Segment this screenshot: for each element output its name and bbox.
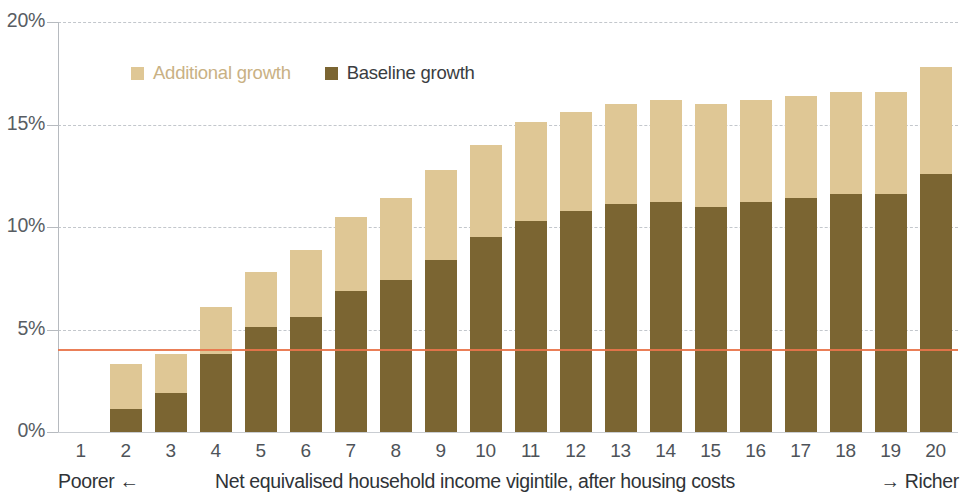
bar-vigintile-12	[560, 112, 592, 432]
bar-vigintile-14	[650, 100, 682, 432]
chart-legend: Additional growth Baseline growth	[131, 62, 475, 84]
bar-segment-baseline	[740, 202, 772, 432]
x-axis-tick-3: 3	[149, 440, 193, 462]
gridline-5%	[58, 330, 958, 331]
x-axis-tick-2: 2	[104, 440, 148, 462]
bar-segment-baseline	[335, 291, 367, 432]
x-axis-tick-18: 18	[824, 440, 868, 462]
bar-vigintile-2	[110, 364, 142, 432]
y-axis-tick-0%: 0%	[0, 419, 45, 442]
bar-segment-additional	[515, 122, 547, 220]
bar-segment-baseline	[110, 409, 142, 432]
y-axis-tickmark-0%	[47, 432, 58, 433]
x-axis-tick-13: 13	[599, 440, 643, 462]
x-axis-tick-19: 19	[869, 440, 913, 462]
bar-segment-baseline	[470, 237, 502, 432]
bar-vigintile-17	[785, 96, 817, 432]
bar-segment-additional	[650, 100, 682, 203]
legend-item-baseline-growth: Baseline growth	[325, 62, 475, 84]
bar-vigintile-20	[920, 67, 952, 432]
y-axis-tickmark-10%	[47, 227, 58, 228]
y-axis-tick-5%: 5%	[0, 317, 45, 340]
bar-vigintile-16	[740, 100, 772, 432]
x-axis-tick-9: 9	[419, 440, 463, 462]
bar-segment-baseline	[560, 211, 592, 432]
x-axis-tick-16: 16	[734, 440, 778, 462]
bar-segment-baseline	[650, 202, 682, 432]
bar-segment-baseline	[245, 327, 277, 432]
x-axis-tick-10: 10	[464, 440, 508, 462]
bar-segment-baseline	[290, 317, 322, 432]
legend-swatch-additional-icon	[131, 67, 144, 80]
bar-vigintile-15	[695, 104, 727, 432]
x-axis-caption-row: Poorer ← Net equivalised household incom…	[0, 470, 965, 498]
bar-segment-additional	[470, 145, 502, 237]
x-axis-caption-poorer: Poorer ←	[58, 470, 139, 493]
bar-segment-baseline	[785, 198, 817, 432]
legend-label-baseline: Baseline growth	[347, 62, 475, 84]
bar-segment-baseline	[695, 207, 727, 433]
bar-segment-baseline	[380, 280, 412, 432]
gridline-20%	[58, 22, 958, 23]
bar-segment-additional	[560, 112, 592, 210]
bar-vigintile-19	[875, 92, 907, 432]
y-axis-tick-20%: 20%	[0, 9, 45, 32]
x-axis-tick-17: 17	[779, 440, 823, 462]
bar-segment-baseline	[515, 221, 547, 432]
x-axis-tick-12: 12	[554, 440, 598, 462]
bar-segment-baseline	[605, 204, 637, 432]
bar-segment-additional	[110, 364, 142, 409]
x-axis-tick-4: 4	[194, 440, 238, 462]
bar-segment-baseline	[830, 194, 862, 432]
bar-segment-baseline	[920, 174, 952, 432]
x-axis-tick-14: 14	[644, 440, 688, 462]
bar-segment-additional	[155, 354, 187, 393]
gridline-15%	[58, 125, 958, 126]
bar-vigintile-5	[245, 272, 277, 432]
legend-swatch-baseline-icon	[325, 67, 338, 80]
x-axis-tick-15: 15	[689, 440, 733, 462]
bar-segment-additional	[920, 67, 952, 174]
x-axis-tick-5: 5	[239, 440, 283, 462]
bar-segment-additional	[875, 92, 907, 195]
x-axis-caption-richer: → Richer	[881, 470, 959, 493]
bar-vigintile-13	[605, 104, 637, 432]
bar-segment-baseline	[200, 354, 232, 432]
bar-segment-baseline	[875, 194, 907, 432]
x-axis-tick-20: 20	[914, 440, 958, 462]
bar-vigintile-9	[425, 170, 457, 432]
bar-segment-additional	[335, 217, 367, 291]
chart-figure: 0%5%10%15%20% Additional growth Baseline…	[0, 0, 965, 499]
bar-vigintile-8	[380, 198, 412, 432]
x-axis-tick-7: 7	[329, 440, 373, 462]
y-axis-tick-10%: 10%	[0, 214, 45, 237]
x-axis-caption-main: Net equivalised household income viginti…	[215, 470, 735, 493]
bar-segment-additional	[245, 272, 277, 327]
x-axis-line	[58, 432, 958, 433]
bar-segment-additional	[380, 198, 412, 280]
bar-vigintile-3	[155, 354, 187, 432]
x-axis-tick-8: 8	[374, 440, 418, 462]
y-axis-tickmark-20%	[47, 22, 58, 23]
bar-segment-additional	[290, 250, 322, 318]
x-axis-tick-11: 11	[509, 440, 553, 462]
bar-vigintile-4	[200, 307, 232, 432]
bar-vigintile-6	[290, 250, 322, 432]
gridline-10%	[58, 227, 958, 228]
x-axis-tick-1: 1	[59, 440, 103, 462]
bar-segment-additional	[830, 92, 862, 195]
bar-segment-additional	[740, 100, 772, 203]
bar-segment-additional	[425, 170, 457, 260]
y-axis-tick-15%: 15%	[0, 112, 45, 135]
legend-item-additional-growth: Additional growth	[131, 62, 291, 84]
legend-label-additional: Additional growth	[153, 62, 291, 84]
bar-segment-additional	[605, 104, 637, 204]
y-axis-tickmark-5%	[47, 330, 58, 331]
bar-segment-additional	[785, 96, 817, 199]
x-axis-tick-6: 6	[284, 440, 328, 462]
bar-vigintile-7	[335, 217, 367, 432]
x-axis-tick-labels: 1234567891011121314151617181920	[58, 440, 958, 466]
bar-segment-additional	[200, 307, 232, 354]
bar-vigintile-11	[515, 122, 547, 432]
bar-segment-baseline	[425, 260, 457, 432]
